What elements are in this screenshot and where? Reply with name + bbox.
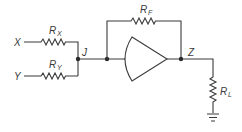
circuit-diagram: X Y J Z R X R Y R F R L bbox=[0, 0, 242, 132]
label-ry: R bbox=[49, 59, 56, 70]
label-rx-sub: X bbox=[56, 30, 62, 37]
label-z: Z bbox=[187, 47, 195, 58]
junction-dot-j bbox=[76, 57, 80, 61]
ground-icon bbox=[207, 114, 219, 121]
label-rl-sub: L bbox=[228, 91, 232, 98]
resistor-rx bbox=[24, 39, 78, 76]
label-rl: R bbox=[220, 86, 227, 97]
resistor-rf bbox=[107, 18, 181, 59]
resistor-ry bbox=[24, 73, 78, 79]
label-y: Y bbox=[14, 71, 22, 82]
label-j: J bbox=[81, 47, 88, 58]
circuit-svg: X Y J Z R X R Y R F R L bbox=[0, 0, 242, 132]
label-x: X bbox=[13, 37, 21, 48]
label-ry-sub: Y bbox=[57, 64, 63, 71]
label-rf-sub: F bbox=[148, 9, 153, 16]
wire-output bbox=[167, 59, 216, 113]
output-node-z bbox=[179, 57, 183, 61]
label-rx: R bbox=[49, 25, 56, 36]
label-rf: R bbox=[140, 4, 147, 15]
amplifier-symbol bbox=[125, 37, 167, 81]
